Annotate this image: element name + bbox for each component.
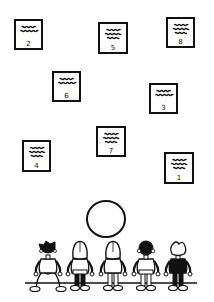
card-number: 7 xyxy=(98,147,124,155)
numbered-card: 8 xyxy=(166,17,195,48)
numbered-card: 2 xyxy=(14,19,43,50)
numbered-card: 3 xyxy=(149,83,178,114)
card-number: 2 xyxy=(16,40,41,48)
child-figure xyxy=(30,241,66,292)
numbered-card: 1 xyxy=(164,152,194,184)
card-number: 6 xyxy=(54,92,79,100)
card-number: 1 xyxy=(166,174,192,182)
card-number: 5 xyxy=(100,44,126,52)
card-number: 3 xyxy=(151,104,176,112)
card-number: 8 xyxy=(168,38,193,46)
numbered-card: 7 xyxy=(96,126,126,157)
children-row xyxy=(30,241,192,292)
card-number: 4 xyxy=(24,162,49,170)
numbered-card: 6 xyxy=(52,71,81,102)
empty-circle xyxy=(87,201,125,237)
numbered-card: 5 xyxy=(98,22,128,54)
numbered-card: 4 xyxy=(22,140,51,172)
